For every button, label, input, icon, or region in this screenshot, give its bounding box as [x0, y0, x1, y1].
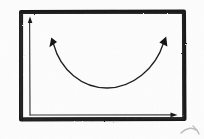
- sketch-drawing: [0, 0, 204, 139]
- sketch-canvas: Hand-drawn sketch of a U-shaped (convex)…: [0, 0, 204, 139]
